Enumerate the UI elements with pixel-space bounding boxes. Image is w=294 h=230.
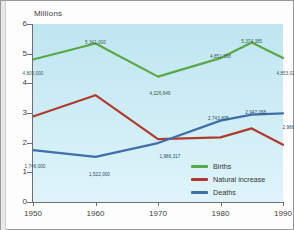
legend-color-swatch xyxy=(191,165,208,167)
x-axis-tick xyxy=(283,202,284,206)
data-point-label: 2,986,158 xyxy=(283,125,294,130)
y-axis-label: 4 xyxy=(15,78,27,87)
data-point-label: 1,522,000 xyxy=(89,172,110,177)
data-point-label: 1,986,317 xyxy=(160,154,181,159)
legend-label: Deaths xyxy=(213,188,236,197)
legend-label: Natural increase xyxy=(213,175,265,184)
series-line-births xyxy=(33,43,283,77)
y-axis-tick xyxy=(27,113,32,114)
x-axis-label: 1950 xyxy=(24,209,42,218)
y-axis-tick xyxy=(27,54,32,55)
y-axis-title: Millions xyxy=(34,9,62,18)
legend-item: Deaths xyxy=(191,187,265,198)
y-axis-tick xyxy=(27,143,32,144)
x-axis-label: 1970 xyxy=(149,209,167,218)
y-axis-tick xyxy=(27,24,32,25)
x-axis-tick xyxy=(33,202,34,206)
x-axis-label: 1960 xyxy=(87,209,105,218)
x-axis-tick xyxy=(96,202,97,206)
legend-label: Births xyxy=(213,162,231,171)
data-point-label: 4,226,649 xyxy=(150,91,171,96)
y-axis-label: 0 xyxy=(15,197,27,206)
y-axis-tick xyxy=(27,202,32,203)
data-point-label: 5,374,385 xyxy=(241,39,262,44)
page-left-edge xyxy=(1,1,6,230)
legend-color-swatch xyxy=(191,191,208,193)
series-line-natural-increase xyxy=(33,95,283,145)
data-point-label: 4,853,029 xyxy=(277,71,294,76)
x-axis-label: 1980 xyxy=(212,209,230,218)
legend-item: Births xyxy=(191,161,265,172)
chart-page: Millions 0123456 19501960197019801990 4,… xyxy=(0,0,294,230)
x-axis-label: 1990 xyxy=(274,209,292,218)
y-axis-tick xyxy=(27,172,32,173)
chart-legend: BirthsNatural increaseDeaths xyxy=(191,161,265,200)
y-axis xyxy=(32,24,33,203)
y-axis-label: 5 xyxy=(15,49,27,58)
y-axis-label: 3 xyxy=(15,108,27,117)
data-point-label: 1,746,000 xyxy=(25,164,46,169)
y-axis-tick xyxy=(27,83,32,84)
legend-color-swatch xyxy=(191,178,208,180)
data-point-label: 2,947,068 xyxy=(245,110,266,115)
y-axis-label: 2 xyxy=(15,138,27,147)
series-line-deaths xyxy=(33,113,283,156)
data-point-label: 2,743,805 xyxy=(208,116,229,121)
x-axis-tick xyxy=(221,202,222,206)
x-axis-tick xyxy=(158,202,159,206)
y-axis-label: 6 xyxy=(15,19,27,28)
data-point-label: 5,341,000 xyxy=(85,40,106,45)
legend-item: Natural increase xyxy=(191,174,265,185)
data-point-label: 4,851,368 xyxy=(210,54,231,59)
data-point-label: 4,805,000 xyxy=(23,71,44,76)
